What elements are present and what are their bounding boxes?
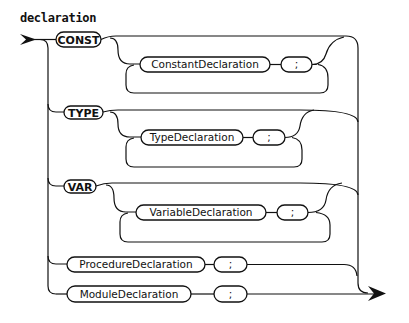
keyword-const: CONST: [57, 34, 100, 47]
syntax-diagram: CONST ConstantDeclaration ; TYPE TypeDec…: [0, 0, 409, 323]
nonterminal-procedure-declaration: ProcedureDeclaration: [79, 258, 192, 270]
separator-semicolon: ;: [295, 58, 299, 70]
left-rail: [40, 40, 56, 295]
branch-type: TYPE TypeDeclaration ;: [64, 106, 314, 167]
keyword-type: TYPE: [68, 107, 99, 120]
nonterminal-variable-declaration: VariableDeclaration: [149, 206, 252, 218]
nonterminal-type-declaration: TypeDeclaration: [149, 131, 235, 143]
keyword-var: VAR: [68, 181, 93, 194]
separator-semicolon: ;: [229, 288, 233, 300]
branch-module: ModuleDeclaration ;: [67, 286, 376, 302]
nonterminal-constant-declaration: ConstantDeclaration: [151, 58, 259, 70]
branch-var: VAR VariableDeclaration ;: [64, 180, 342, 242]
branch-const: CONST ConstantDeclaration ;: [56, 32, 346, 93]
separator-semicolon: ;: [291, 206, 295, 218]
separator-semicolon: ;: [267, 131, 271, 143]
right-rail: [346, 36, 368, 293]
nonterminal-module-declaration: ModuleDeclaration: [80, 288, 179, 300]
separator-semicolon: ;: [229, 258, 233, 270]
branch-procedure: ProcedureDeclaration ;: [67, 257, 357, 276]
